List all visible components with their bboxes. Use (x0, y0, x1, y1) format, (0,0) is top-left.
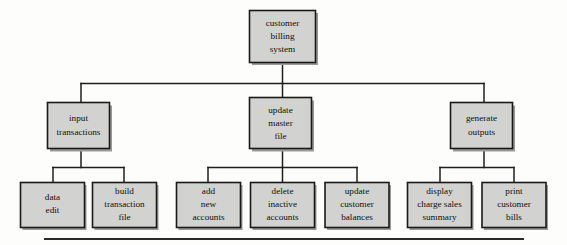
node-label-line-1: generate (466, 113, 497, 123)
node-box (451, 103, 513, 149)
node-label-line-3: accounts (192, 212, 225, 222)
node-label-line-1: customer (266, 18, 300, 28)
node-label-line-2: edit (46, 205, 60, 215)
node-label-line-1: add (202, 186, 216, 196)
node-update-master-file[interactable]: update master file (250, 98, 315, 152)
node-label-line-2: customer (497, 199, 531, 209)
node-label-line-3: balances (341, 212, 373, 222)
diagram-canvas: customer billing system input transactio… (0, 0, 567, 245)
node-label-line-1: print (505, 186, 523, 196)
node-label-line-1: update (345, 186, 370, 196)
node-label-line-1: delete (272, 186, 294, 196)
node-label-line-2: customer (340, 199, 374, 209)
node-label-line-1: build (115, 186, 134, 196)
node-add-new-accounts[interactable]: add new accounts (177, 183, 243, 231)
node-box (48, 103, 110, 149)
node-label-line-2: new (201, 199, 217, 209)
node-label-line-3: accounts (266, 212, 299, 222)
node-label-line-3: summary (422, 212, 457, 222)
node-label-line-2: outputs (468, 127, 495, 137)
node-label-line-3: file (118, 212, 130, 222)
node-label-line-3: system (270, 44, 296, 54)
node-label-line-3: file (274, 131, 286, 141)
connector-group-input-transactions-children (53, 150, 124, 183)
node-data-edit[interactable]: data edit (21, 183, 87, 231)
node-label-line-2: inactive (268, 199, 297, 209)
node-update-customer-balances[interactable]: update customer balances (325, 183, 391, 231)
node-label-line-2: transaction (104, 199, 145, 209)
node-build-transaction-file[interactable]: build transaction file (93, 183, 159, 231)
node-customer-billing-system[interactable]: customer billing system (250, 11, 319, 66)
node-label-line-2: billing (271, 31, 295, 41)
node-label-line-1: data (45, 192, 60, 202)
connector-group-generate-outputs-children (440, 150, 514, 183)
node-label-line-2: master (268, 118, 293, 128)
node-display-charge-sales-summary[interactable]: display charge sales summary (408, 183, 474, 231)
node-input-transactions[interactable]: input transactions (48, 103, 113, 152)
connector-group-update-master-file-children (208, 150, 357, 183)
node-label-line-2: transactions (57, 127, 101, 137)
node-label-line-1: display (426, 186, 453, 196)
node-label-line-1: update (268, 105, 293, 115)
node-print-customer-bills[interactable]: print customer bills (482, 183, 548, 231)
node-label-line-2: charge sales (417, 199, 462, 209)
structure-chart-diagram: customer billing system input transactio… (0, 0, 567, 245)
node-delete-inactive-accounts[interactable]: delete inactive accounts (251, 183, 317, 231)
node-label-line-3: bills (506, 212, 522, 222)
node-generate-outputs[interactable]: generate outputs (451, 103, 516, 152)
node-label-line-1: input (69, 113, 88, 123)
